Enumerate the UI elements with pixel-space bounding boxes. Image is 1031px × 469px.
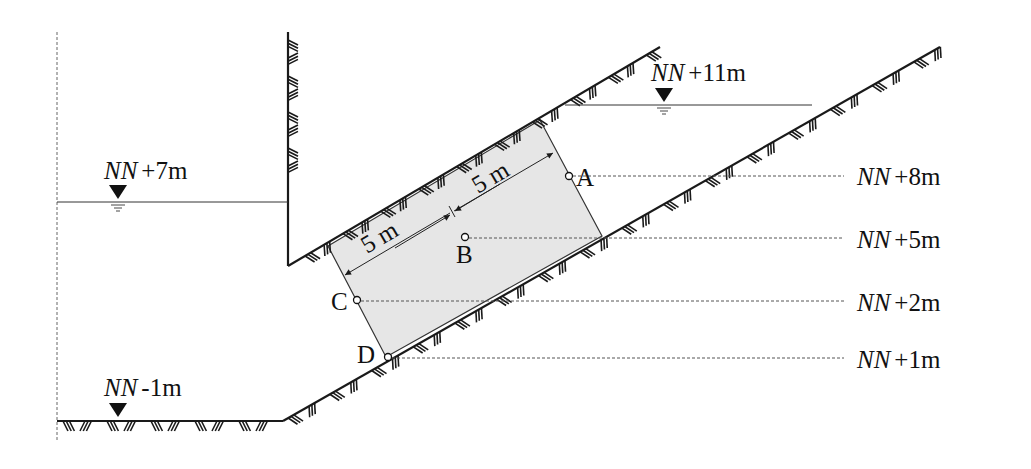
point-A-label: A	[576, 164, 594, 191]
bottom-ground-hatch	[63, 421, 267, 431]
elevation-label-B: NN+5m	[856, 226, 941, 253]
water-level-label-right: NN+11m	[650, 59, 747, 86]
point-B-label: B	[456, 241, 473, 268]
point-C-label: C	[331, 288, 348, 315]
point-D-marker	[385, 354, 392, 361]
water-level-label-left: NN+7m	[103, 157, 188, 184]
water-level-symbol-bottom	[109, 403, 127, 417]
point-A-marker	[566, 173, 573, 180]
vertical-wall-hatch	[288, 40, 298, 172]
point-D-label: D	[357, 341, 375, 368]
water-level-symbol-right	[655, 88, 673, 114]
elevation-label-C: NN+2m	[856, 289, 941, 316]
water-level-symbol-left	[109, 185, 127, 211]
elevation-label-D: NN+1m	[856, 346, 941, 373]
elevation-label-A: NN+8m	[856, 163, 941, 190]
point-C-marker	[354, 297, 361, 304]
point-B-marker	[462, 234, 469, 241]
water-level-label-bottom: NN-1m	[103, 374, 182, 401]
cross-section-diagram: NN+7m NN+11m NN-1m 5 m 5 m A B C D NN+8m…	[0, 0, 1031, 469]
